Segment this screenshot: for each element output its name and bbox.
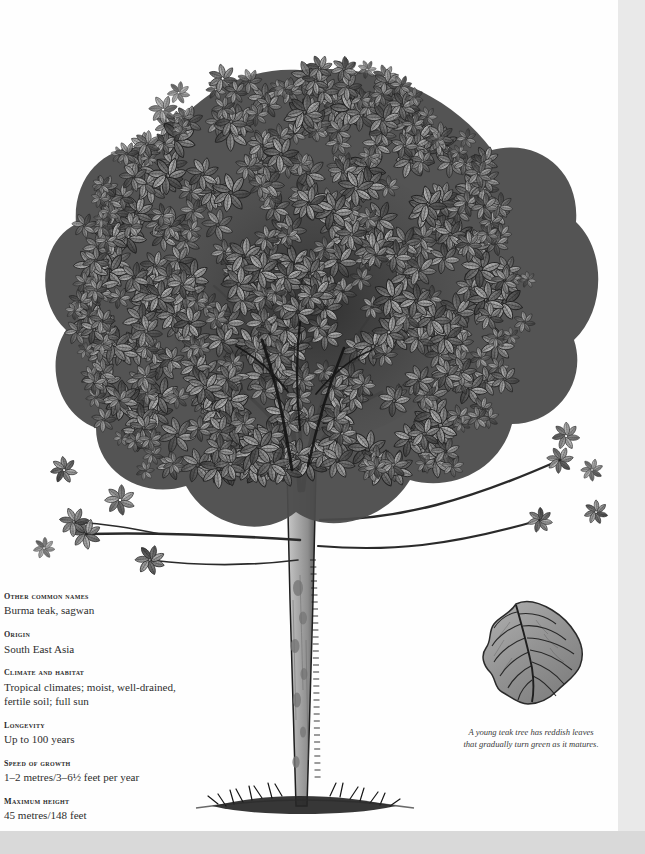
fact-longevity: Longevity Up to 100 years xyxy=(4,718,189,747)
fact-value: 45 metres/148 feet xyxy=(4,808,189,822)
leaf-detail-caption: A young teak tree has reddish leaves tha… xyxy=(441,726,618,751)
fact-label: Other common names xyxy=(4,589,189,602)
fact-label: Speed of growth xyxy=(4,756,189,769)
fact-list: Other common names Burma teak, sagwan Or… xyxy=(4,589,189,831)
caption-line-1: A young teak tree has reddish leaves xyxy=(468,727,593,737)
tree-canopy xyxy=(33,51,613,579)
caption-line-2: that gradually turn green as it matures. xyxy=(463,739,598,749)
page-bottom-band xyxy=(0,831,645,854)
fact-origin: Origin South East Asia xyxy=(4,627,189,656)
fact-label: Maximum height xyxy=(4,794,189,807)
fact-value: 1–2 metres/3–6½ feet per year xyxy=(4,770,189,784)
fact-label: Origin xyxy=(4,627,189,640)
fact-value: Up to 100 years xyxy=(4,732,189,746)
fact-value: South East Asia xyxy=(4,642,189,656)
fact-value: Burma teak, sagwan xyxy=(4,603,189,617)
fact-label: Climate and habitat xyxy=(4,665,189,678)
teak-leaf-detail xyxy=(466,592,606,712)
page-gutter xyxy=(618,0,645,854)
fact-maximum-height: Maximum height 45 metres/148 feet xyxy=(4,794,189,823)
book-page: Other common names Burma teak, sagwan Or… xyxy=(0,0,618,831)
fact-speed-of-growth: Speed of growth 1–2 metres/3–6½ feet per… xyxy=(4,756,189,785)
fact-climate-and-habitat: Climate and habitat Tropical climates; m… xyxy=(4,665,189,708)
fact-label: Longevity xyxy=(4,718,189,731)
leaf-detail-svg xyxy=(466,592,606,712)
fact-value: Tropical climates; moist, well-drained, … xyxy=(4,680,189,708)
fact-other-common-names: Other common names Burma teak, sagwan xyxy=(4,589,189,618)
